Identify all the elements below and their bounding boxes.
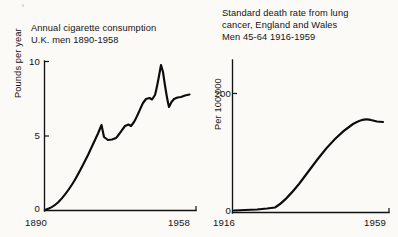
- plot-area-right: [205, 0, 398, 237]
- chart-panel-cigarette-consumption: Annual cigarette consumption U.K. men 18…: [0, 0, 205, 237]
- figure-container: Annual cigarette consumption U.K. men 18…: [0, 0, 398, 237]
- plot-area-left: [0, 0, 205, 237]
- chart-panel-lung-cancer-death-rate: Standard death rate from lung cancer, En…: [205, 0, 398, 237]
- data-line-cigarette-consumption: [46, 65, 190, 210]
- data-line-lung-cancer-death-rate: [234, 119, 383, 210]
